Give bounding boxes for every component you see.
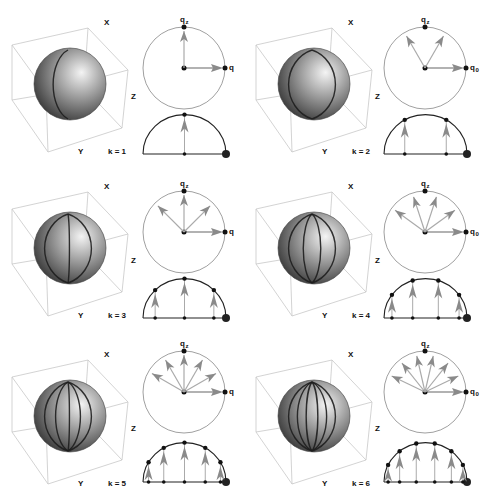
sphere [278, 212, 350, 284]
k-label: k = 2 [352, 147, 370, 156]
q-label: q0 [470, 63, 479, 73]
circle-diagram [384, 25, 469, 110]
semicircle-diagram [384, 278, 471, 322]
panel-k4: X Z Y k = 4 qz q0 [244, 164, 490, 332]
qz-label: qz [180, 339, 188, 349]
axis-label-z: Z [375, 92, 380, 101]
axis-label-x: X [104, 182, 109, 191]
semicircle-diagram [384, 115, 471, 158]
axis-label-y: Y [78, 479, 83, 488]
axis-label-y: Y [78, 311, 83, 320]
axis-label-x: X [104, 18, 109, 27]
qz-label: qz [421, 15, 429, 25]
k-label: k = 1 [108, 147, 126, 156]
circle-diagram [384, 189, 469, 274]
qz-label: qz [421, 179, 429, 189]
panel-graphics [244, 164, 490, 332]
panel-graphics [0, 0, 246, 168]
axis-label-z: Z [375, 256, 380, 265]
k-label: k = 3 [108, 311, 126, 320]
q-label: q0 [470, 227, 479, 237]
panel-k3: X Z Y k = 3 qz q [0, 164, 246, 332]
q-label: q [229, 387, 234, 397]
circle-diagram [143, 349, 228, 434]
circle-diagram [143, 189, 228, 274]
panel-k5: X Z Y k = 5 qz q [0, 332, 246, 500]
panel-k6: X Z Y k = 6 qz q0 [244, 332, 490, 500]
axis-label-x: X [348, 350, 353, 359]
k-label: k = 6 [352, 479, 370, 488]
axis-label-z: Z [131, 256, 136, 265]
axis-label-x: X [348, 182, 353, 191]
semicircle-diagram [143, 112, 230, 158]
axis-label-z: Z [131, 424, 136, 433]
semicircle-diagram [143, 440, 230, 486]
semicircle-diagram [384, 441, 471, 486]
panel-graphics [0, 164, 246, 332]
axis-label-y: Y [322, 311, 327, 320]
qz-label: qz [180, 15, 188, 25]
q-label: q0 [470, 387, 479, 397]
sphere [34, 212, 106, 284]
k-label: k = 5 [108, 479, 126, 488]
circle-diagram [384, 349, 469, 434]
axis-label-y: Y [322, 479, 327, 488]
axis-label-x: X [348, 18, 353, 27]
panel-k1: X Z Y k = 1 qz q [0, 0, 246, 168]
axis-label-z: Z [131, 92, 136, 101]
axis-label-x: X [104, 350, 109, 359]
panel-graphics [0, 332, 246, 500]
sphere [34, 48, 106, 120]
semicircle-diagram [143, 276, 230, 322]
panel-graphics [244, 332, 490, 500]
q-label: q [229, 63, 234, 73]
qz-label: qz [180, 179, 188, 189]
q-label: q [229, 227, 234, 237]
panel-graphics [244, 0, 490, 168]
axis-label-y: Y [322, 147, 327, 156]
figure: X Z Y k = 1 qz q X Z Y k = 2 qz q0 X Z Y… [0, 0, 492, 504]
axis-label-z: Z [375, 424, 380, 433]
qz-label: qz [421, 339, 429, 349]
sphere [278, 48, 350, 120]
k-label: k = 4 [352, 311, 370, 320]
sphere [278, 380, 350, 452]
sphere [34, 380, 106, 452]
axis-label-y: Y [78, 147, 83, 156]
panel-k2: X Z Y k = 2 qz q0 [244, 0, 490, 168]
circle-diagram [143, 25, 228, 110]
